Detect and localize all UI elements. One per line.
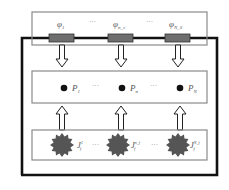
label-ellipsis: ···	[89, 18, 96, 26]
middle-panel: P1 ··· Pn ··· PN	[32, 71, 207, 103]
label-ellipsis: ···	[146, 18, 153, 26]
down-arrows	[56, 45, 184, 67]
label-p-N: PN	[187, 83, 198, 94]
label-p-n: Pn	[129, 83, 139, 94]
label-ellipsis: ···	[150, 82, 157, 90]
arrow-down-icon	[115, 45, 127, 67]
node-dot-n	[119, 85, 126, 92]
label-p-1: P1	[71, 83, 80, 94]
diagram-canvas: φ1 ··· φn_s ··· φN_S P1 ··· Pn ··· PN J1…	[0, 0, 229, 190]
label-j-1: J1f	[77, 140, 83, 151]
source-burst-icon	[50, 133, 74, 157]
label-ellipsis: ···	[92, 141, 99, 149]
label-phi-N: φN_S	[169, 19, 183, 30]
node-dot-1	[61, 85, 68, 92]
arrow-up-icon	[174, 106, 186, 130]
label-phi-1: φ1	[57, 19, 64, 30]
top-panel: φ1 ··· φn_s ··· φN_S	[32, 12, 207, 45]
source-burst-icon	[106, 133, 130, 157]
node-dot-N	[177, 85, 184, 92]
label-phi-n: φn_s	[113, 19, 125, 30]
resistor-N	[165, 34, 190, 42]
label-ellipsis: ···	[92, 82, 99, 90]
up-arrows	[56, 106, 186, 130]
source-burst-icon	[166, 133, 190, 157]
resistor-1	[49, 34, 74, 42]
arrow-down-icon	[172, 45, 184, 67]
resistor-n	[108, 34, 133, 42]
label-j-n: Jn_ff	[131, 140, 141, 151]
arrow-up-icon	[56, 106, 68, 130]
arrow-up-icon	[115, 106, 127, 130]
arrow-down-icon	[56, 45, 68, 67]
label-j-N: JN_ff	[190, 140, 200, 151]
bottom-panel: J1f ··· Jn_ff ··· JN_ff	[32, 130, 207, 160]
label-ellipsis: ···	[151, 141, 158, 149]
